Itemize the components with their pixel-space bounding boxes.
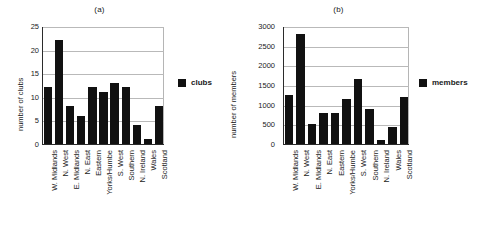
- bar: [296, 34, 304, 144]
- chart-b-x-tick: Scotland: [406, 150, 414, 179]
- chart-a-x-tick: Wales: [150, 150, 158, 171]
- chart-b-x-tick-labels: W. MidlandsN. WestE. MidlandsN. EastEast…: [283, 150, 409, 220]
- legend-swatch-icon: [178, 79, 186, 87]
- chart-a-x-tick-labels: W. MidlandsN. WestE. MidlandsN. EastEast…: [42, 150, 164, 220]
- bar: [55, 40, 63, 144]
- bar: [354, 79, 362, 144]
- chart-b-x-tick: E. Midlands: [315, 150, 323, 189]
- chart-b-y-tick: 1500: [253, 82, 275, 90]
- chart-panel-a: (a) number of clubs 0510152025 W. Midlan…: [0, 0, 243, 226]
- bar: [155, 106, 163, 144]
- bar: [77, 116, 85, 144]
- chart-a-x-tick: W. Midlands: [51, 150, 59, 191]
- chart-a-y-tick-labels: 0510152025: [17, 27, 39, 145]
- chart-b-x-tick: S. West: [360, 150, 368, 176]
- bar: [342, 99, 350, 144]
- chart-a-x-tick: Yorks/Humbe: [106, 150, 114, 195]
- bar: [388, 127, 396, 144]
- chart-b-legend-label: members: [432, 78, 468, 87]
- chart-a-title: (a): [0, 5, 221, 14]
- chart-a-y-tick: 10: [17, 94, 39, 102]
- chart-a-plot-area: [42, 27, 164, 145]
- chart-a-y-tick: 15: [17, 70, 39, 78]
- chart-b-x-tick: Southern: [372, 150, 380, 180]
- chart-a-x-tick: N. West: [62, 150, 70, 177]
- chart-a-x-tick: N. Ireland: [139, 150, 147, 183]
- chart-b-x-tick: N. East: [326, 150, 334, 175]
- bar: [88, 87, 96, 144]
- chart-b-x-tick: W. Midlands: [292, 150, 300, 191]
- chart-b-x-tick: Eastern: [338, 150, 346, 176]
- chart-b-y-tick: 2000: [253, 63, 275, 71]
- chart-a-y-tick: 20: [17, 47, 39, 55]
- bar: [285, 95, 293, 144]
- chart-a-legend-label: clubs: [191, 78, 212, 87]
- chart-b-x-tick: N. Ireland: [383, 150, 391, 183]
- bar: [110, 83, 118, 144]
- bar: [66, 106, 74, 144]
- bar: [308, 124, 316, 144]
- chart-a-x-tick: Eastern: [95, 150, 103, 176]
- chart-b-y-axis-label: number of members: [229, 71, 238, 138]
- bar: [377, 140, 385, 144]
- bar: [99, 92, 107, 144]
- figure-root: (a) number of clubs 0510152025 W. Midlan…: [0, 0, 486, 226]
- bar: [133, 125, 141, 144]
- chart-a-x-tick: N. East: [84, 150, 92, 175]
- chart-a-y-tick: 0: [17, 141, 39, 149]
- chart-a-x-tick: S. West: [117, 150, 125, 176]
- chart-b-x-tick: Yorks/Humbe: [349, 150, 357, 195]
- bar: [319, 113, 327, 144]
- chart-a-x-tick: E. Midlands: [73, 150, 81, 189]
- chart-b-y-tick: 0: [253, 141, 275, 149]
- legend-swatch-icon: [419, 79, 427, 87]
- chart-a-legend: clubs: [178, 78, 212, 87]
- chart-b-y-tick: 500: [253, 122, 275, 130]
- bar: [400, 97, 408, 144]
- chart-a-y-tick: 25: [17, 23, 39, 31]
- chart-b-y-tick: 1000: [253, 102, 275, 110]
- bar: [365, 109, 373, 144]
- chart-b-x-tick: N. West: [303, 150, 311, 177]
- bar: [144, 139, 152, 144]
- chart-b-y-tick-labels: 050010001500200025003000: [253, 27, 275, 145]
- bar: [122, 87, 130, 144]
- chart-b-legend: members: [419, 78, 468, 87]
- chart-b-bars: [284, 27, 409, 144]
- chart-b-title: (b): [217, 5, 460, 14]
- chart-b-y-tick: 3000: [253, 23, 275, 31]
- chart-b-y-tick: 2500: [253, 43, 275, 51]
- chart-a-y-tick: 5: [17, 118, 39, 126]
- chart-a-bars: [43, 27, 164, 144]
- chart-a-x-tick: Southern: [128, 150, 136, 180]
- bar: [44, 87, 52, 144]
- chart-a-x-tick: Scotland: [161, 150, 169, 179]
- chart-b-plot-area: [283, 27, 409, 145]
- chart-b-x-tick: Wales: [395, 150, 403, 171]
- bar: [331, 113, 339, 144]
- chart-panel-b: (b) number of members 050010001500200025…: [243, 0, 486, 226]
